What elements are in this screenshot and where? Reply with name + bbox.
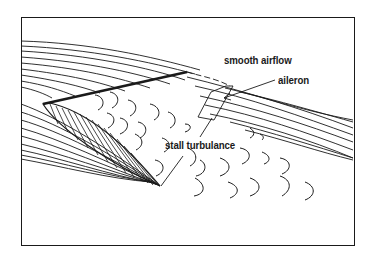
wing-leading-edge [43, 72, 187, 104]
smooth-airflow-label: smooth airflow [224, 54, 292, 66]
diagram: smooth airflow aileron stall turbulance [0, 0, 371, 258]
stall-pointer-1 [161, 156, 183, 186]
stall-pointer-2 [200, 118, 212, 137]
aileron-label: aileron [278, 74, 309, 86]
streamlines [21, 41, 353, 186]
frame [22, 18, 355, 246]
wing-stall-illustration [0, 0, 371, 258]
stall-turbulance-label: stall turbulance [165, 139, 235, 151]
